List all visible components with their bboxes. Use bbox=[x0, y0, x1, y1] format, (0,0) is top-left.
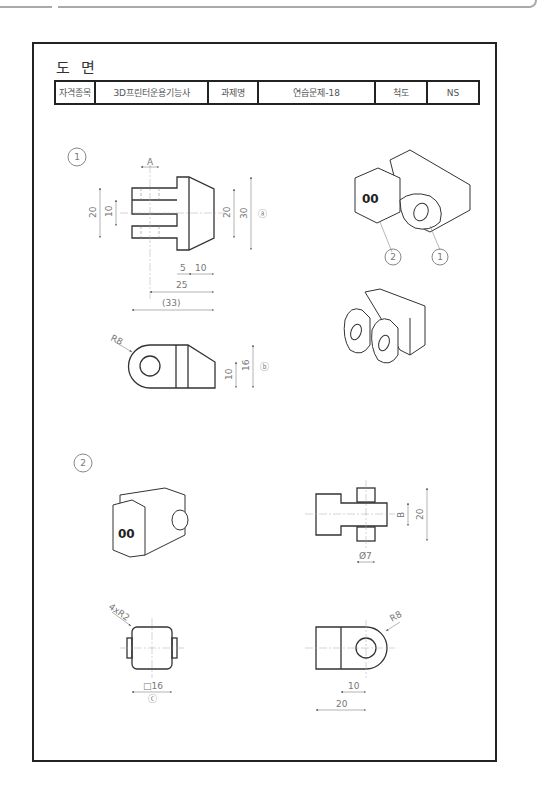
part2-front-dims: 4xR2 □16 ⓒ bbox=[107, 601, 172, 704]
svg-text:00: 00 bbox=[118, 527, 135, 541]
svg-text:ⓑ: ⓑ bbox=[260, 362, 269, 372]
part1-number-circle: 1 bbox=[68, 148, 86, 166]
part2-top-dims: B 20 Ø7 bbox=[357, 488, 427, 562]
svg-text:1: 1 bbox=[74, 152, 80, 162]
svg-text:10: 10 bbox=[104, 205, 114, 217]
svg-text:B: B bbox=[396, 512, 406, 518]
callout-part-1: 1 bbox=[432, 249, 448, 265]
svg-text:ⓒ: ⓒ bbox=[148, 694, 157, 704]
svg-text:4xR2: 4xR2 bbox=[107, 601, 132, 622]
svg-text:10: 10 bbox=[348, 681, 360, 691]
svg-text:ⓐ: ⓐ bbox=[258, 209, 267, 219]
svg-text:25: 25 bbox=[176, 280, 187, 290]
svg-text:20: 20 bbox=[88, 206, 98, 218]
svg-text:□16: □16 bbox=[143, 681, 163, 691]
svg-text:20: 20 bbox=[336, 699, 348, 709]
svg-text:30: 30 bbox=[239, 207, 249, 219]
part2-side-view bbox=[305, 620, 395, 678]
part1-isometric-view bbox=[344, 289, 425, 363]
svg-text:(33): (33) bbox=[162, 298, 180, 308]
part2-top-view bbox=[305, 480, 395, 548]
part2-isometric-view: 00 bbox=[113, 488, 188, 557]
svg-text:A: A bbox=[147, 157, 154, 167]
part1-front-view bbox=[120, 165, 225, 300]
svg-text:5: 5 bbox=[180, 263, 186, 273]
svg-text:20: 20 bbox=[222, 206, 232, 218]
technical-drawing: 1 A 20 10 20 30 ⓐ 5 10 25 (33) bbox=[0, 0, 537, 800]
svg-text:R8: R8 bbox=[388, 609, 404, 624]
svg-text:10: 10 bbox=[224, 368, 234, 380]
svg-text:Ø7: Ø7 bbox=[359, 551, 372, 561]
part2-front-view bbox=[120, 618, 185, 678]
part1-side-view bbox=[129, 345, 216, 388]
svg-text:R8: R8 bbox=[109, 333, 124, 347]
svg-text:2: 2 bbox=[390, 252, 396, 262]
svg-text:2: 2 bbox=[80, 458, 86, 468]
svg-text:10: 10 bbox=[195, 263, 207, 273]
part2-number-circle: 2 bbox=[74, 454, 92, 472]
callout-part-2: 2 bbox=[385, 249, 401, 265]
svg-text:1: 1 bbox=[437, 252, 443, 262]
assembly-isometric-view: 00 bbox=[355, 150, 470, 252]
svg-text:00: 00 bbox=[362, 192, 379, 206]
svg-text:20: 20 bbox=[415, 508, 425, 520]
part2-side-dims: R8 10 20 bbox=[316, 609, 404, 710]
svg-text:16: 16 bbox=[241, 359, 251, 371]
